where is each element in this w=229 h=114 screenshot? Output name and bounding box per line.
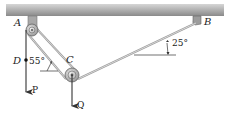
label-q: Q [77, 100, 84, 110]
label-b: B [203, 16, 211, 27]
angle-55-label: 55° [29, 56, 45, 66]
pulley-diagram: A D C B P Q 55° 25° [0, 0, 229, 114]
pulley-a [26, 24, 38, 36]
label-c: C [66, 54, 74, 65]
label-a: A [13, 17, 21, 28]
ceiling-beam [6, 4, 224, 16]
angle-25-label: 25° [172, 38, 188, 48]
label-d: D [12, 55, 21, 66]
label-p: P [32, 85, 38, 95]
point-d-dot [24, 58, 28, 62]
cable-c-to-b [78, 23, 196, 79]
